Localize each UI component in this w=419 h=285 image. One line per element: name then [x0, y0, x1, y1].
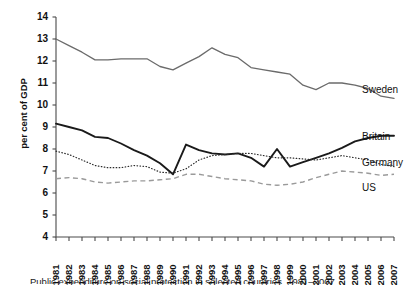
series-line-germany: [56, 151, 394, 173]
y-axis-tick-11: 11: [26, 78, 48, 88]
axis-lines: [56, 17, 394, 237]
y-axis-tick-labels: 4567891011121314: [24, 0, 48, 284]
y-axis-tick-10: 10: [26, 100, 48, 110]
series-line-sweden: [56, 39, 394, 98]
figure-caption: Public expenditure on social protection …: [30, 276, 419, 284]
y-axis-tick-12: 12: [26, 56, 48, 66]
y-axis-tick-5: 5: [26, 210, 48, 220]
series-label-sweden: Sweden: [362, 84, 398, 95]
y-axis-tick-9: 9: [26, 122, 48, 132]
series-label-britain: Britain: [362, 131, 390, 142]
y-axis-tick-7: 7: [26, 166, 48, 176]
series-line-us: [56, 171, 394, 185]
y-axis-tick-14: 14: [26, 12, 48, 22]
plot-svg: [56, 17, 394, 237]
y-axis-tick-8: 8: [26, 144, 48, 154]
y-axis-tick-4: 4: [26, 232, 48, 242]
series-label-us: US: [362, 182, 376, 193]
y-axis-tick-6: 6: [26, 188, 48, 198]
plot-area: [56, 17, 394, 237]
y-axis-tick-13: 13: [26, 34, 48, 44]
series-line-britain: [56, 124, 394, 175]
series-label-germany: Germany: [362, 157, 403, 168]
